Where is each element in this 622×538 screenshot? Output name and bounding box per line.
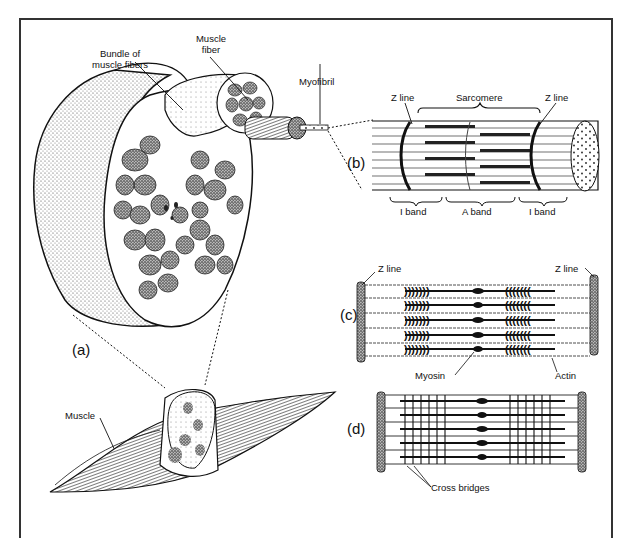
panel-label-b: (b) xyxy=(347,154,365,171)
sarcomere-contracted xyxy=(377,392,586,487)
svg-text:))))))): ))))))) xyxy=(404,285,430,297)
label-actin: Actin xyxy=(555,370,576,381)
svg-text:))))))): ))))))) xyxy=(404,314,430,326)
label-bundle-line2: muscle fibers xyxy=(80,59,160,70)
label-fiber-line1: Muscle xyxy=(186,33,236,44)
whole-muscle xyxy=(50,390,335,492)
svg-text:))))))): ))))))) xyxy=(404,329,430,341)
label-muscle: Muscle xyxy=(65,410,95,421)
label-cross-bridges: Cross bridges xyxy=(431,482,490,493)
panel-label-c: (c) xyxy=(340,306,358,323)
svg-text:))))))): ))))))) xyxy=(404,343,430,355)
label-z-line-c-left: Z line xyxy=(378,263,401,274)
sarcomere-relaxed: ))))))) ))))))) ))))))) ))))))) ))))))) … xyxy=(357,268,598,375)
svg-text:(((((((: ((((((( xyxy=(505,285,531,297)
label-muscle-fiber: Muscle fiber xyxy=(186,33,236,55)
myofibril-enlarged xyxy=(372,103,599,206)
label-a-band: A band xyxy=(462,206,492,217)
label-z-line-b-right: Z line xyxy=(545,92,568,103)
svg-text:))))))): ))))))) xyxy=(404,299,430,311)
label-z-line-b-left: Z line xyxy=(391,92,414,103)
svg-text:(((((((: ((((((( xyxy=(505,329,531,341)
svg-text:(((((((: ((((((( xyxy=(505,299,531,311)
label-sarcomere: Sarcomere xyxy=(456,92,502,103)
label-i-band-left: I band xyxy=(400,206,426,217)
label-myosin: Myosin xyxy=(415,370,445,381)
svg-text:(((((((: ((((((( xyxy=(505,343,531,355)
label-bundle-of-muscle-fibers: Bundle of muscle fibers xyxy=(80,48,160,70)
panel-label-a: (a) xyxy=(72,341,90,358)
svg-text:(((((((: ((((((( xyxy=(505,314,531,326)
label-z-line-c-right: Z line xyxy=(555,263,578,274)
muscle-cross-section xyxy=(34,63,328,327)
label-bundle-line1: Bundle of xyxy=(80,48,160,59)
panel-label-d: (d) xyxy=(347,420,365,437)
label-myofibril: Myofibril xyxy=(299,76,334,87)
label-i-band-right: I band xyxy=(529,206,555,217)
label-fiber-line2: fiber xyxy=(186,44,236,55)
